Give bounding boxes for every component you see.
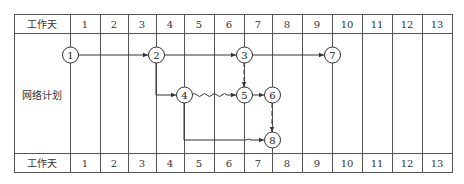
footer-day: 13 [431,158,444,169]
node-label: 6 [269,90,275,101]
header-days: 1 2 3 4 5 6 7 8 9 10 11 12 13 [82,19,444,30]
footer-day: 10 [341,158,354,169]
footer-day: 2 [111,158,117,169]
footer-day: 1 [82,158,88,169]
node-label: 1 [67,50,73,61]
header-day: 13 [431,19,444,30]
footer-label: 工作天 [27,158,57,169]
footer-day: 9 [314,158,320,169]
node-7: 7 [325,47,341,63]
time-scaled-network-diagram: 工作天 1 2 3 4 5 6 7 8 9 10 11 12 13 网络计划 工… [0,0,464,184]
node-3: 3 [237,47,253,63]
footer-day: 12 [401,158,414,169]
footer-day: 8 [284,158,290,169]
node-label: 7 [329,50,335,61]
header-day: 1 [82,19,88,30]
footer-day: 11 [371,158,384,169]
edge-2-4 [156,63,176,95]
node-label: 4 [181,90,187,101]
footer-days: 1 2 3 4 5 6 7 8 9 10 11 12 13 [82,158,444,169]
header-day: 5 [196,19,202,30]
header-day: 10 [341,19,354,30]
node-label: 2 [153,50,159,61]
footer-day: 3 [139,158,145,169]
node-label: 8 [269,135,275,146]
row-label: 网络计划 [22,89,62,101]
header-label: 工作天 [27,19,57,30]
node-1: 1 [63,47,79,63]
node-label: 3 [241,50,247,61]
header-day: 2 [111,19,117,30]
node-2: 2 [149,47,165,63]
footer-day: 4 [167,158,173,169]
header-day: 8 [284,19,290,30]
node-6: 6 [265,87,281,103]
table-border [15,15,453,173]
header-day: 7 [255,19,261,30]
node-4: 4 [177,87,193,103]
edge-4-8 [184,103,264,140]
footer-day: 5 [196,158,202,169]
header-day: 11 [371,19,384,30]
nodes: 1 2 3 7 4 5 6 8 [63,47,341,148]
footer-day: 7 [255,158,261,169]
footer-day: 6 [226,158,232,169]
node-8: 8 [265,132,281,148]
node-5: 5 [237,87,253,103]
header-day: 4 [167,19,173,30]
header-day: 9 [314,19,320,30]
header-day: 3 [139,19,145,30]
edges [78,55,324,140]
header-day: 12 [401,19,414,30]
header-day: 6 [226,19,232,30]
node-label: 5 [241,90,247,101]
